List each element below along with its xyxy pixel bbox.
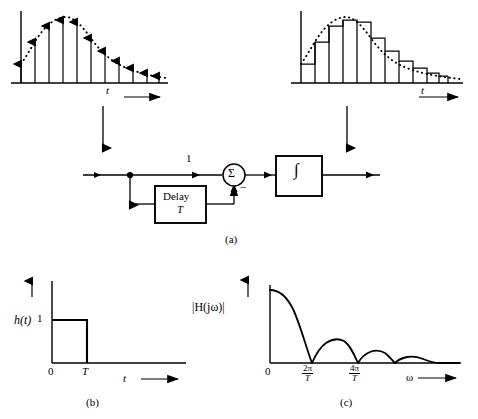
delay-param-label: T <box>177 203 183 215</box>
null2-numerator: 4π <box>349 364 360 373</box>
gain-label: 1 <box>186 152 192 164</box>
caption-c: (c) <box>340 396 352 408</box>
rect-pulse-trace <box>52 320 87 363</box>
output-x-axis-label: t <box>421 84 424 96</box>
integrator-block <box>276 156 322 196</box>
input-line-arrowhead <box>94 172 101 178</box>
impulse-response-plot <box>8 275 208 390</box>
h-x-axis-label: t <box>123 372 126 384</box>
output-envelope-dotted <box>301 17 460 79</box>
H-null-4pi-over-T: 4π T <box>349 363 360 383</box>
figure-zero-order-hold: t t <box>0 0 478 419</box>
minus-sign-label: − <box>240 180 247 195</box>
input-x-axis-label: t <box>106 84 109 96</box>
h-x-tick-0: 0 <box>48 365 54 377</box>
output-arrowhead <box>366 172 374 179</box>
block-diagram <box>0 100 478 240</box>
H-x-tick-0: 0 <box>265 365 271 377</box>
sum-symbol: Σ <box>228 166 235 181</box>
delay-label: Delay <box>163 190 189 202</box>
H-y-axis-label: |H(jω)| <box>192 300 225 315</box>
h-x-tick-T: T <box>82 365 88 377</box>
impulse-stems <box>21 20 159 83</box>
staircase-plot <box>288 6 478 106</box>
integrator-symbol: ∫ <box>294 160 299 180</box>
summer-output-arrowhead <box>264 172 272 179</box>
sinc-curve <box>270 290 460 363</box>
h-y-axis-label: h(t) <box>14 313 31 328</box>
null1-numerator: 2π <box>302 364 313 373</box>
input-envelope-dotted <box>21 17 166 78</box>
staircase-trace <box>301 20 448 76</box>
h-y-tick-1: 1 <box>37 312 43 324</box>
feedforward-arrowhead <box>192 172 200 179</box>
H-null-2pi-over-T: 2π T <box>302 363 313 383</box>
null1-denominator: T <box>302 373 313 383</box>
null2-denominator: T <box>349 373 360 383</box>
H-x-axis-label: ω <box>406 371 413 383</box>
caption-a: (a) <box>225 233 237 245</box>
caption-b: (b) <box>86 396 99 408</box>
